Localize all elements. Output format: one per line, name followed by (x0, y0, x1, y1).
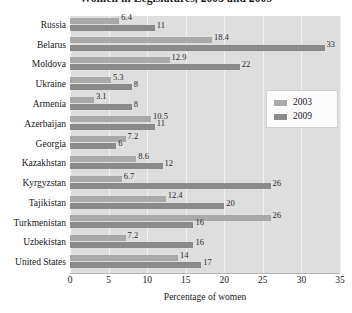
x-axis-tick-labels: 05101520253035 (0, 276, 352, 290)
bar-2003-georgia (70, 136, 126, 142)
x-tick-label-10: 10 (142, 276, 152, 286)
chart-container: Women in Legislatures, 2003 and 2009 Rus… (0, 0, 352, 313)
bar-2009-uzbekistan (70, 242, 193, 248)
legend-item-2003: 2003 (274, 96, 337, 110)
bar-2003-ukraine (70, 77, 111, 83)
x-tick-label-15: 15 (181, 276, 191, 286)
bar-2009-belarus (70, 45, 325, 51)
bar-group-georgia: 7.26 (70, 135, 340, 153)
category-label-tajikistan: Tajikistan (0, 199, 66, 209)
category-label-ukraine: Ukraine (0, 80, 66, 90)
bar-2009-ukraine (70, 84, 132, 90)
bar-2009-azerbaijan (70, 124, 155, 130)
y-axis-category-labels: RussiaBelarusMoldovaUkraineArmeniaAzerba… (0, 16, 66, 273)
bar-2009-united-states (70, 262, 201, 268)
bar-2003-armenia (70, 97, 94, 103)
bar-value-2003-georgia: 7.2 (128, 132, 139, 141)
category-label-azerbaijan: Azerbaijan (0, 120, 66, 130)
bar-2009-armenia (70, 104, 132, 110)
bar-value-2003-armenia: 3.1 (96, 92, 107, 101)
bar-2003-moldova (70, 57, 170, 63)
category-label-united-states: United States (0, 258, 66, 268)
bar-value-2009-georgia: 6 (118, 139, 122, 148)
legend-label-2003: 2003 (293, 98, 312, 108)
bar-value-2009-uzbekistan: 16 (195, 238, 204, 247)
bar-2003-tajikistan (70, 196, 166, 202)
bar-value-2009-tajikistan: 20 (226, 199, 235, 208)
legend-swatch-2009-icon (274, 114, 287, 120)
bar-group-turkmenistan: 2616 (70, 214, 340, 232)
bar-rows: 6.41118.43312.9225.383.1810.5117.268.612… (70, 16, 340, 273)
category-label-georgia: Georgia (0, 140, 66, 150)
category-label-turkmenistan: Turkmenistan (0, 219, 66, 229)
bar-value-2003-uzbekistan: 7.2 (128, 231, 139, 240)
legend-label-2009: 2009 (293, 112, 312, 122)
bar-value-2009-ukraine: 8 (134, 80, 138, 89)
legend: 2003 2009 (266, 90, 338, 128)
bar-value-2003-belarus: 18.4 (214, 33, 229, 42)
x-tick-label-25: 25 (258, 276, 268, 286)
chart-title: Women in Legislatures, 2003 and 2009 (0, 0, 352, 4)
bar-2009-kyrgyzstan (70, 183, 271, 189)
x-tick-label-0: 0 (68, 276, 73, 286)
bar-value-2003-turkmenistan: 26 (273, 211, 282, 220)
x-tick-label-30: 30 (297, 276, 307, 286)
bar-value-2003-russia: 6.4 (121, 13, 132, 22)
category-label-uzbekistan: Uzbekistan (0, 238, 66, 248)
bar-value-2009-belarus: 33 (327, 40, 336, 49)
legend-swatch-2003-icon (274, 100, 287, 106)
bar-2003-belarus (70, 37, 212, 43)
bar-value-2009-armenia: 8 (134, 100, 138, 109)
bar-group-uzbekistan: 7.216 (70, 233, 340, 251)
bar-2009-kazakhstan (70, 163, 163, 169)
bar-2003-uzbekistan (70, 235, 126, 241)
bar-2003-kyrgyzstan (70, 176, 122, 182)
bar-2009-turkmenistan (70, 222, 193, 228)
bar-value-2003-moldova: 12.9 (172, 53, 187, 62)
category-label-armenia: Armenia (0, 100, 66, 110)
bar-value-2009-azerbaijan: 11 (157, 119, 165, 128)
bar-value-2003-tajikistan: 12.4 (168, 191, 183, 200)
bar-value-2009-russia: 11 (157, 21, 165, 30)
gridline-35 (340, 16, 341, 273)
bar-value-2003-kyrgyzstan: 6.7 (124, 172, 135, 181)
bar-value-2009-united-states: 17 (203, 258, 212, 267)
bar-group-moldova: 12.922 (70, 56, 340, 74)
x-tick-label-20: 20 (220, 276, 230, 286)
bar-2003-kazakhstan (70, 156, 136, 162)
bar-2003-turkmenistan (70, 215, 271, 221)
bar-2003-united-states (70, 255, 178, 261)
bar-group-tajikistan: 12.420 (70, 194, 340, 212)
category-label-belarus: Belarus (0, 41, 66, 51)
bar-value-2009-kyrgyzstan: 26 (273, 179, 282, 188)
x-tick-label-35: 35 (335, 276, 345, 286)
plot-area: 6.41118.43312.9225.383.1810.5117.268.612… (70, 16, 340, 273)
bar-value-2009-kazakhstan: 12 (165, 159, 174, 168)
category-label-kazakhstan: Kazakhstan (0, 159, 66, 169)
bar-value-2009-turkmenistan: 16 (195, 218, 204, 227)
category-label-moldova: Moldova (0, 60, 66, 70)
bar-2009-moldova (70, 64, 240, 70)
x-axis-title: Percentage of women (70, 292, 340, 302)
bar-2003-russia (70, 18, 119, 24)
bar-2003-azerbaijan (70, 116, 151, 122)
bar-value-2009-moldova: 22 (242, 60, 251, 69)
bar-group-united-states: 1417 (70, 253, 340, 271)
bar-group-kazakhstan: 8.612 (70, 154, 340, 172)
bar-value-2003-united-states: 14 (180, 251, 189, 260)
bar-group-kyrgyzstan: 6.726 (70, 174, 340, 192)
bar-value-2003-ukraine: 5.3 (113, 73, 124, 82)
legend-item-2009: 2009 (274, 110, 337, 124)
bar-2009-russia (70, 25, 155, 31)
bar-group-russia: 6.411 (70, 16, 340, 34)
bar-2009-georgia (70, 143, 116, 149)
bar-group-belarus: 18.433 (70, 36, 340, 54)
category-label-kyrgyzstan: Kyrgyzstan (0, 179, 66, 189)
category-label-russia: Russia (0, 21, 66, 31)
bar-value-2003-kazakhstan: 8.6 (138, 152, 149, 161)
bar-2009-tajikistan (70, 203, 224, 209)
x-axis-line (70, 273, 340, 274)
x-tick-label-5: 5 (106, 276, 111, 286)
